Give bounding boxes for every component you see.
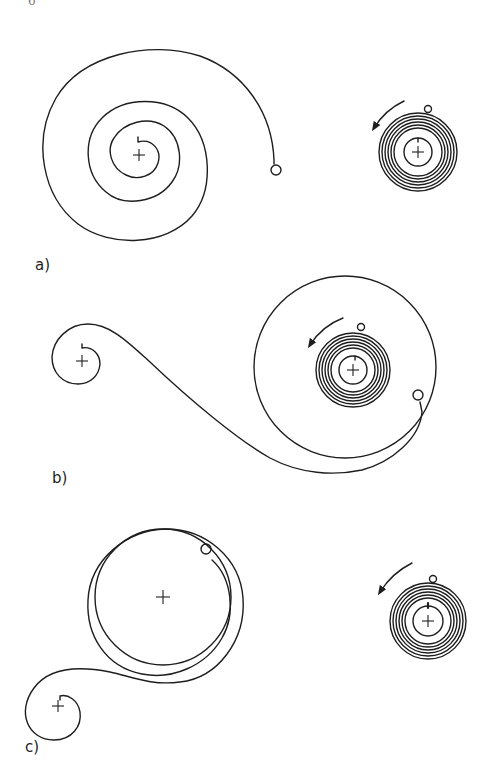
coil-eyelet-icon [430,576,437,583]
arbor-center-cross-icon [76,355,88,367]
end-eyelet-icon [271,165,281,175]
arbor-center-cross-icon [347,364,359,376]
panel-b [52,276,436,473]
barrel-circle [254,276,436,458]
wound-coil-b [310,318,390,407]
coil-eyelet-icon [358,324,365,331]
panel-label-c: c) [25,738,39,756]
wound-coil-c [380,563,466,659]
arbor-center-cross-icon [52,700,64,712]
arbor-center-cross-icon [422,615,434,627]
panel-label-b: b) [52,469,67,487]
arbor-center-cross-icon [412,146,424,158]
arbor-center-cross-icon [156,590,170,604]
rotation-arrow-icon [380,563,412,592]
end-eyelet-icon [413,390,423,400]
panel-label-a: a) [35,256,50,274]
free-spiral-spring [43,50,281,241]
end-eyelet-icon [201,544,211,554]
rotation-arrow-icon [310,318,343,345]
coil-eyelet-icon [425,106,432,113]
spring-diagram [0,0,499,763]
panel-a [43,50,457,241]
arbor-center-cross-icon [133,149,145,161]
panel-c [25,529,466,740]
wound-coil-a [374,101,457,191]
